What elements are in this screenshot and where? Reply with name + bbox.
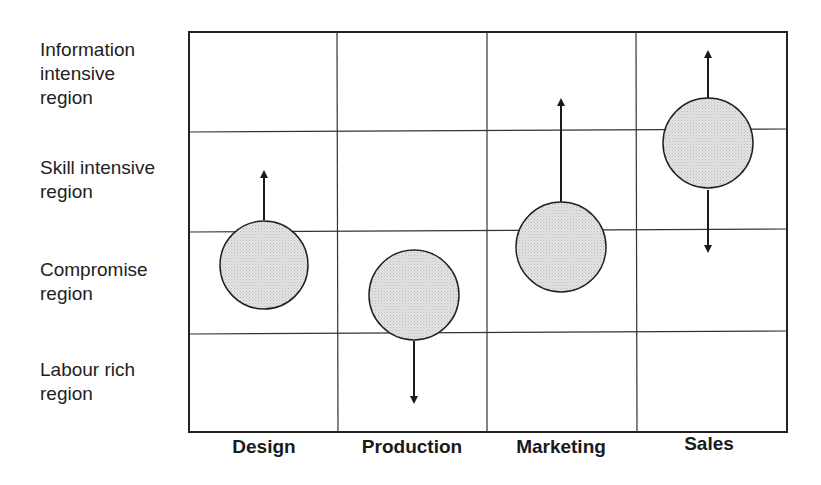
grid-vline-3 — [636, 32, 637, 432]
row-label-line: Skill intensive — [40, 156, 155, 180]
column-label-design: Design — [189, 436, 339, 458]
row-label-line: intensive — [40, 62, 135, 86]
row-label-line: Compromise — [40, 258, 148, 282]
node-sales — [663, 54, 753, 249]
row-label-information-intensive: Information intensive region — [40, 38, 135, 110]
row-label-line: Labour rich — [40, 358, 135, 382]
sales-circle — [663, 98, 753, 188]
grid-vline-1 — [337, 32, 338, 432]
row-label-line: region — [40, 382, 135, 406]
row-label-line: Information — [40, 38, 135, 62]
grid-hline-3 — [189, 331, 787, 334]
column-label-sales: Sales — [634, 433, 784, 455]
production-circle — [369, 250, 459, 340]
row-label-line: region — [40, 86, 135, 110]
column-label-production: Production — [337, 436, 487, 458]
row-label-line: region — [40, 282, 148, 306]
column-label-marketing: Marketing — [486, 436, 636, 458]
row-label-line: region — [40, 180, 155, 204]
row-label-labour-rich: Labour rich region — [40, 358, 135, 406]
row-label-skill-intensive: Skill intensive region — [40, 156, 155, 204]
design-circle — [220, 221, 308, 309]
node-production — [369, 250, 459, 400]
node-design — [220, 174, 308, 309]
marketing-circle — [516, 202, 606, 292]
row-label-compromise: Compromise region — [40, 258, 148, 306]
